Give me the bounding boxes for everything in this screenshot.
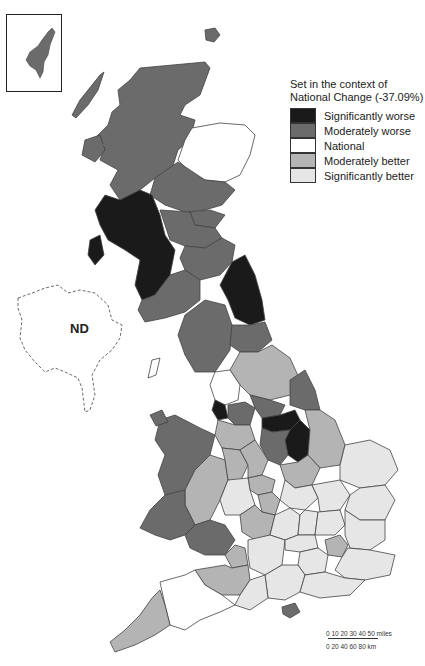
region-durham [230,322,272,352]
region-bucks [298,510,318,535]
legend-title-line1: Set in the context of [290,78,425,91]
legend-label: National [324,140,364,152]
scale-bar: 0 10 20 30 40 50 miles 0 20 40 60 80 km [326,630,421,651]
legend-swatch-mod-better [290,153,316,168]
northern-ireland-label: ND [70,321,89,336]
shetland-inset-frame [6,14,62,92]
legend-swatch-national [290,138,316,153]
legend-item-national: National [290,138,425,153]
legend-swatch-mod-worse [290,123,316,138]
region-strathclyde [95,190,175,300]
legend-item-sig-worse: Significantly worse [290,108,425,123]
region-herts [315,510,345,535]
legend-item-mod-worse: Moderately worse [290,123,425,138]
region-cambs [312,480,350,512]
legend-label: Significantly worse [324,110,415,122]
legend-title: Set in the context of National Change (-… [290,78,425,104]
region-isle-of-wight [282,603,300,618]
scale-km: 0 20 40 60 80 km [326,643,421,651]
legend-swatch-sig-better [290,168,316,183]
legend-label: Moderately better [324,155,410,167]
region-outer-hebrides [72,72,104,118]
region-gtr-manchester [228,402,255,425]
region-cornwall [110,590,170,652]
region-north-yorks [230,345,300,400]
legend: Set in the context of National Change (-… [290,78,425,183]
legend-title-line2: National Change (-37.09%) [290,91,425,104]
scale-bar-line [328,638,378,643]
region-northern-ireland [18,285,122,412]
legend-label: Moderately worse [324,125,411,137]
legend-label: Significantly better [324,170,414,182]
legend-swatch-sig-worse [290,108,316,123]
legend-item-sig-better: Significantly better [290,168,425,183]
region-islay [88,235,104,265]
region-isle-of-man [148,358,160,378]
region-orkney [205,28,220,42]
region-norfolk [340,440,398,488]
scale-miles: 0 10 20 30 40 50 miles [326,630,421,638]
legend-item-mod-better: Moderately better [290,153,425,168]
